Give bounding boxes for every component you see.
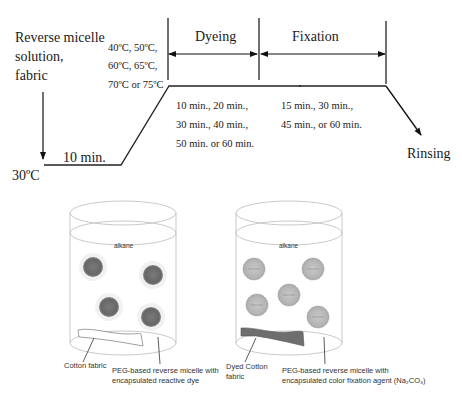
micelle-light	[278, 284, 300, 306]
micelle-dark	[137, 303, 165, 331]
micelle-dark	[95, 293, 123, 321]
beaker-dyeing	[70, 201, 176, 364]
cotton-fabric	[78, 329, 143, 346]
micelle-dark	[79, 253, 107, 281]
micelle-light	[302, 258, 324, 280]
beaker-1-micelle-label-line-1: PEG-based reverse micelle with	[112, 366, 219, 376]
beakers-graphic	[0, 0, 462, 398]
beaker-1-medium-label: alkane	[114, 241, 133, 251]
micelle-light	[246, 294, 268, 316]
micelle-light	[243, 258, 265, 280]
beaker-1-micelle-label-line-2: encapsulated reactive dye	[112, 376, 199, 386]
micelle-dark	[139, 261, 167, 289]
beaker-2-micelle-label-line-1: PEG-based reverse micelle with	[282, 366, 389, 376]
dyed-cotton-fabric	[241, 328, 304, 346]
beaker-2-micelle-label-line-2: encapsulated color fixation agent (Na₂CO…	[282, 376, 426, 386]
beaker-fixation	[236, 201, 342, 364]
beaker-2-fabric-label-line-1: Dyed Cotton	[226, 362, 268, 372]
beaker-2-medium-label: alkane	[279, 241, 298, 251]
beaker-2-fabric-label-line-2: fabric	[226, 372, 244, 382]
beaker-1-fabric-label: Cotton fabric	[64, 361, 107, 371]
micelle-light	[307, 306, 329, 328]
